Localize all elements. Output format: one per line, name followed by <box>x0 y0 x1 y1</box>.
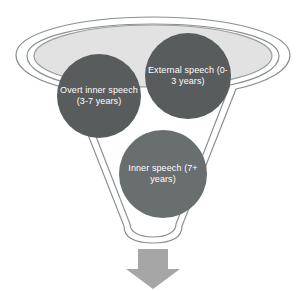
stage-circle-overt-inner-speech[interactable]: Overt inner speech (3-7 years) <box>57 54 141 138</box>
stage-label-external-speech: External speech (0-3 years) <box>147 65 229 88</box>
stage-label-overt-inner-speech: Overt inner speech (3-7 years) <box>59 85 139 108</box>
stage-label-inner-speech: Inner speech (7+ years) <box>121 163 205 186</box>
stage-circle-external-speech[interactable]: External speech (0-3 years) <box>145 33 231 119</box>
down-arrow-icon <box>126 249 180 289</box>
stage-circle-inner-speech[interactable]: Inner speech (7+ years) <box>119 130 207 218</box>
funnel-diagram: Overt inner speech (3-7 years) External … <box>0 0 306 291</box>
